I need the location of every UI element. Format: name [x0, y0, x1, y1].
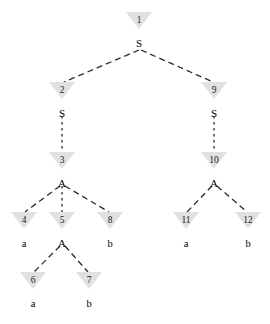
step-number-label: 11: [173, 215, 199, 225]
tree-edge-n10-n12: [217, 186, 247, 212]
tree-edge-n3-n8: [65, 186, 109, 212]
step-number-label: 10: [201, 155, 227, 165]
tree-edge-n3-n4: [25, 186, 60, 212]
step-number-label: 3: [49, 155, 75, 165]
step-number-label: 12: [235, 215, 261, 225]
terminal-symbol-8: b: [97, 238, 123, 249]
step-number-label: 1: [126, 15, 152, 25]
nonterminal-symbol-9: S: [201, 108, 227, 119]
step-number-label: 9: [201, 85, 227, 95]
step-number-label: 4: [11, 215, 37, 225]
step-number-label: 8: [97, 215, 123, 225]
terminal-symbol-11: a: [173, 238, 199, 249]
step-number-label: 5: [49, 215, 75, 225]
terminal-symbol-12: b: [235, 238, 261, 249]
tree-edge-n5-n7: [65, 246, 88, 272]
terminal-symbol-7: b: [76, 298, 102, 309]
tree-edge-n1-n9: [141, 50, 213, 82]
nonterminal-symbol-5: A: [49, 238, 75, 249]
step-number-label: 2: [49, 85, 75, 95]
nonterminal-symbol-3: A: [49, 178, 75, 189]
tree-edge-n5-n6: [34, 246, 60, 272]
step-number-label: 7: [76, 275, 102, 285]
step-number-label: 6: [20, 275, 46, 285]
tree-edge-n10-n11: [187, 186, 212, 212]
terminal-symbol-6: a: [20, 298, 46, 309]
nonterminal-symbol-10: A: [201, 178, 227, 189]
nonterminal-symbol-1: S: [126, 38, 152, 49]
tree-edge-n1-n2: [64, 50, 139, 82]
nonterminal-symbol-2: S: [49, 108, 75, 119]
terminal-symbol-4: a: [11, 238, 37, 249]
